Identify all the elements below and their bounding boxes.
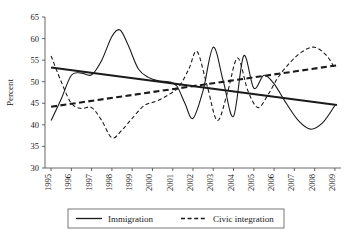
x-tick-label: 1995 <box>43 174 53 191</box>
x-tick-label: 1996 <box>63 174 73 191</box>
x-tick-label: 2006 <box>266 174 276 191</box>
series-immigration-line <box>51 30 335 130</box>
x-axis-tick-labels: 1995199619971998199920002001200220032004… <box>43 173 337 191</box>
x-tick-label: 2001 <box>165 174 175 191</box>
y-axis-tick-labels: 3035404550556065 <box>31 12 40 173</box>
x-tick-label: 2005 <box>246 174 256 191</box>
x-tick-label: 1997 <box>84 174 94 191</box>
x-tick-label: 2004 <box>226 173 236 191</box>
x-axis: 1995199619971998199920002001200220032004… <box>43 168 341 191</box>
y-tick-label: 40 <box>31 120 40 130</box>
legend: Immigration Civic integration <box>68 209 284 228</box>
y-tick-label: 65 <box>31 12 40 22</box>
x-tick-label: 2007 <box>286 174 296 191</box>
x-tick-label: 2008 <box>307 174 317 191</box>
y-tick-label: 35 <box>31 141 40 151</box>
x-tick-label: 2002 <box>185 174 195 191</box>
series-civic-integration-line <box>51 47 335 138</box>
y-tick-label: 30 <box>31 163 40 173</box>
legend-label-civic-integration: Civic integration <box>213 214 274 224</box>
x-tick-label: 2000 <box>144 174 154 191</box>
y-tick-label: 50 <box>31 77 40 87</box>
y-tick-label: 60 <box>31 34 40 44</box>
x-tick-label: 2003 <box>205 174 215 191</box>
trendline-civic-integration <box>51 65 337 106</box>
percent-line-chart: 3035404550556065 19951996199719981999200… <box>0 0 351 233</box>
x-tick-label: 1999 <box>124 174 134 191</box>
y-tick-label: 45 <box>31 98 40 108</box>
x-tick-label: 2009 <box>327 174 337 191</box>
y-tick-label: 55 <box>31 55 40 65</box>
x-tick-label: 1998 <box>104 174 114 191</box>
chart-container: 3035404550556065 19951996199719981999200… <box>0 0 351 233</box>
y-axis: 3035404550556065 <box>31 12 46 173</box>
y-axis-title: Percent <box>5 79 15 106</box>
legend-label-immigration: Immigration <box>108 214 153 224</box>
plot-series <box>51 30 337 138</box>
